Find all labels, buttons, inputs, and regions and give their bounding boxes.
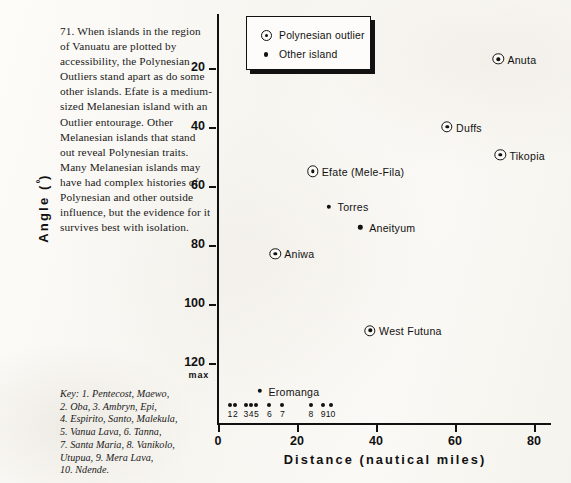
ring-dot-icon [307, 166, 318, 177]
scatter-plot: 20406080100120 020406080 max Angle (º) D… [0, 0, 571, 483]
ring-dot-icon [261, 30, 279, 41]
ring-dot-icon [495, 149, 506, 160]
numbered-island-dot [321, 403, 325, 407]
numbered-island-label: 2 [233, 409, 238, 419]
numbered-island-dot [280, 403, 284, 407]
data-point-label: West Futuna [379, 325, 442, 337]
x-axis-line [217, 423, 551, 425]
dot-icon [358, 225, 362, 229]
x-tick-label: 80 [514, 434, 554, 448]
numbered-island-label: 9 [321, 409, 326, 419]
x-tick-label: 0 [198, 434, 238, 448]
numbered-island-dot [267, 403, 271, 407]
legend-entry-other-island: Other island [261, 45, 370, 64]
y-tick-label: 120 [161, 355, 205, 369]
x-tick [534, 425, 536, 432]
ring-dot-icon [441, 121, 452, 132]
data-point-marker [257, 389, 261, 393]
data-point-label: Aniwa [284, 248, 314, 260]
legend-entry-polynesian-outlier: Polynesian outlier [261, 26, 370, 45]
numbered-island-label: 4 [249, 409, 254, 419]
data-point-marker [358, 225, 362, 229]
y-tick [209, 186, 216, 188]
data-point-label: Duffs [456, 122, 482, 134]
y-tick [209, 127, 216, 129]
numbered-island-dot [233, 403, 237, 407]
numbered-island-label: 1 [227, 409, 232, 419]
x-tick [455, 425, 457, 432]
numbered-island-label: 8 [308, 409, 313, 419]
x-axis-title: Distance (nautical miles) [218, 452, 552, 467]
numbered-island-label: 6 [267, 409, 272, 419]
y-tick [209, 68, 216, 70]
dot-icon [261, 52, 279, 56]
numbered-island-dot [309, 403, 313, 407]
data-point-marker [493, 53, 504, 64]
x-tick [376, 425, 378, 432]
y-axis-line [217, 14, 219, 425]
x-tick-label: 60 [435, 434, 475, 448]
legend-label: Other island [279, 49, 337, 60]
x-tick [218, 425, 220, 432]
data-point-label: Eromanga [269, 386, 320, 398]
numbered-island-dot [249, 403, 253, 407]
data-point-marker [495, 149, 506, 160]
dot-icon [257, 389, 261, 393]
numbered-island-dot [329, 403, 333, 407]
legend-box: Polynesian outlier Other island [246, 16, 371, 70]
ring-dot-icon [270, 248, 281, 259]
numbered-island-dot [254, 403, 258, 407]
x-tick-label: 40 [356, 434, 396, 448]
numbered-island-label: 3 [244, 409, 249, 419]
numbered-island-label: 7 [280, 409, 285, 419]
data-point-marker [364, 325, 375, 336]
y-tick-label: 100 [161, 296, 205, 310]
y-tick-label: 40 [161, 119, 205, 133]
data-point-marker [307, 166, 318, 177]
x-tick-label: 20 [277, 434, 317, 448]
y-tick-label: 80 [161, 237, 205, 251]
x-tick [297, 425, 299, 432]
data-point-label: Efate (Mele-Fila) [322, 166, 405, 178]
y-tick-label: 20 [161, 60, 205, 74]
y-tick [209, 304, 216, 306]
data-point-label: Anuta [507, 54, 536, 66]
data-point-label: Tikopia [509, 150, 545, 162]
y-tick [209, 363, 216, 365]
data-point-marker [326, 204, 330, 208]
numbered-island-label: 10 [326, 409, 336, 419]
y-tick [209, 245, 216, 247]
dot-icon [326, 204, 330, 208]
y-axis-title: Angle (º) [35, 148, 51, 268]
y-tick-label: 60 [161, 178, 205, 192]
ring-dot-icon [364, 325, 375, 336]
numbered-island-dot [228, 403, 232, 407]
data-point-label: Aneityum [369, 222, 415, 234]
numbered-island-label: 5 [254, 409, 259, 419]
numbered-island-dot [244, 403, 248, 407]
data-point-marker [270, 248, 281, 259]
data-point-label: Torres [338, 201, 369, 213]
y-axis-max-note: max [169, 370, 209, 380]
ring-dot-icon [493, 53, 504, 64]
data-point-marker [441, 121, 452, 132]
legend-label: Polynesian outlier [279, 30, 365, 41]
